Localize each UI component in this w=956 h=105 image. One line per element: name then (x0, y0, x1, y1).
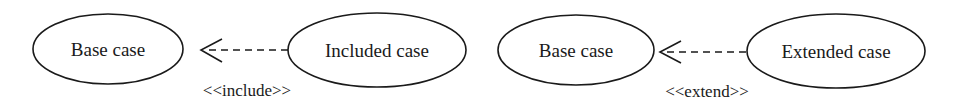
base-case-node-2: Base case (498, 15, 654, 85)
base-case-label: Base case (71, 39, 145, 60)
base-case-label-2: Base case (539, 40, 613, 61)
extend-stereotype-label: <<extend>> (665, 82, 749, 101)
extended-case-label: Extended case (781, 41, 890, 62)
extend-arrow (660, 41, 746, 63)
extended-case-node: Extended case (747, 14, 925, 88)
use-case-diagram: Base case Included case <<include>> Base… (0, 0, 956, 105)
extend-relationship-panel: Base case Extended case <<extend>> (498, 14, 925, 101)
base-case-node: Base case (33, 14, 183, 84)
included-case-node: Included case (288, 13, 466, 87)
included-case-label: Included case (325, 40, 429, 61)
include-relationship-panel: Base case Included case <<include>> (33, 13, 466, 100)
include-stereotype-label: <<include>> (203, 81, 291, 100)
include-arrow (201, 39, 288, 62)
